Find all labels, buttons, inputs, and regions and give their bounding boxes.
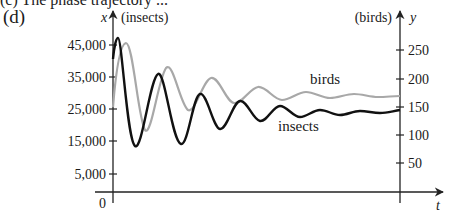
right-tick-label: 50	[408, 156, 422, 171]
birds-series-label: birds	[310, 71, 340, 87]
right-tick-label: 150	[408, 100, 429, 115]
insects-series-label: insects	[278, 118, 319, 134]
population-chart: 45,000 35,000 25,000 15,000 5,000 0 250 …	[0, 0, 450, 224]
insects-curve	[113, 38, 400, 146]
left-tick-label: 15,000	[68, 134, 107, 149]
left-tick-label: 35,000	[68, 70, 107, 85]
left-tick-label: 5,000	[75, 167, 107, 182]
right-tick-label: 100	[408, 128, 429, 143]
left-tick-label: 25,000	[68, 102, 107, 117]
left-axis-title: (insects)	[121, 10, 169, 26]
right-axis-title: (birds)	[355, 10, 393, 26]
right-tick-label: 200	[408, 72, 429, 87]
right-axis-var: y	[408, 10, 417, 25]
left-axis-var: x	[100, 10, 108, 25]
left-tick-label: 45,000	[68, 38, 107, 53]
origin-label: 0	[99, 196, 106, 211]
t-axis-var: t	[436, 198, 441, 213]
right-tick-label: 250	[408, 43, 429, 58]
